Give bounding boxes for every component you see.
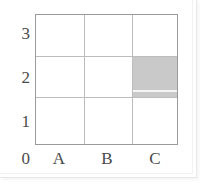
y-axis-tick-3: 3: [0, 25, 30, 42]
x-axis-tick-a: A: [44, 150, 74, 167]
gridline-vertical-2: [132, 15, 133, 144]
x-axis-tick-b: B: [92, 150, 122, 167]
y-axis-tick-1: 1: [0, 113, 30, 130]
axis-origin-label: 0: [0, 150, 30, 167]
gridline-vertical-1: [84, 15, 85, 144]
data-cell-gridline: [133, 90, 177, 92]
plot-area: [35, 14, 178, 145]
y-axis-tick-2: 2: [0, 69, 30, 86]
gridline-horizontal-2: [36, 97, 177, 98]
x-axis-tick-c: C: [140, 150, 170, 167]
grid-chart: 3 2 1 0 A B C: [0, 0, 208, 189]
gridline-horizontal-1: [36, 56, 177, 57]
